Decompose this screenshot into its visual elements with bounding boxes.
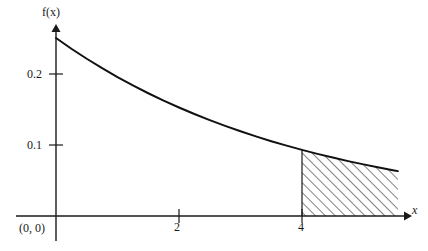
exponential-density-figure: f(x) 0.2 0.1 (0, 0) 2 4 x [0, 0, 428, 251]
origin-label: (0, 0) [19, 222, 45, 234]
x-axis-arrowhead [404, 212, 412, 221]
y-tick-label-0.1: 0.1 [27, 139, 42, 151]
x-tick-label-2: 2 [174, 221, 180, 233]
y-axis-label: f(x) [42, 6, 60, 18]
x-axis-label: x [412, 204, 417, 216]
plot-canvas [0, 0, 428, 251]
y-tick-label-0.2: 0.2 [27, 68, 42, 80]
shaded-tail-region [302, 150, 398, 216]
x-tick-label-4: 4 [298, 221, 304, 233]
density-curve [56, 38, 398, 171]
y-axis-arrowhead [52, 24, 61, 32]
